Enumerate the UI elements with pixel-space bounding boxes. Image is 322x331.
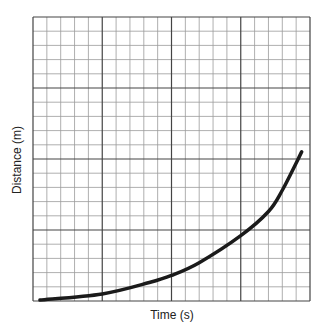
x-axis-label: Time (s) xyxy=(150,308,194,322)
y-axis-label: Distance (m) xyxy=(10,126,24,194)
data-curve xyxy=(40,152,302,300)
distance-time-chart xyxy=(0,0,322,331)
grid xyxy=(33,17,310,301)
